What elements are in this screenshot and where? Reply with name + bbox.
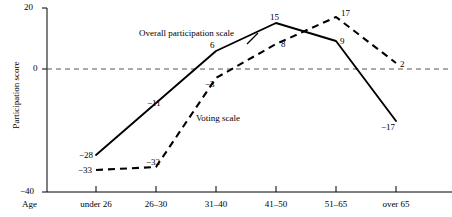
series-annotation-overall-participation: Overall participation scale	[139, 29, 234, 38]
series-line-overall-participation	[96, 23, 396, 155]
data-label-overall-over-65: −17	[381, 123, 395, 132]
x-tick-label-over-65: over 65	[382, 200, 409, 209]
data-label-voting-31-40: −3	[205, 80, 215, 89]
data-label-overall-41-50: 15	[270, 13, 279, 22]
y-axis-title-wrapper: Participation score	[5, 35, 23, 155]
x-axis-title: Age	[22, 200, 37, 209]
data-label-overall-26-30: −11	[147, 99, 161, 108]
data-label-overall-31-40: 6	[210, 41, 215, 50]
x-tick-label-31-40: 31–40	[205, 200, 228, 209]
chart-container: Participation score 20 0 −40 Age under 2…	[0, 0, 452, 217]
y-axis-title: Participation score	[11, 61, 21, 128]
series-annotation-voting: Voting scale	[196, 114, 240, 123]
y-tick-label-minus-40: −40	[20, 187, 34, 196]
data-label-voting-over-65: 2	[400, 60, 405, 69]
data-label-voting-41-50: 8	[281, 40, 286, 49]
data-label-voting-under-26: −33	[78, 166, 92, 175]
series-line-voting	[96, 17, 396, 170]
x-tick-label-51-65: 51–65	[325, 200, 348, 209]
data-label-voting-26-30: −32	[146, 158, 160, 167]
data-label-voting-51-65: 17	[341, 9, 350, 18]
y-tick-label-0: 0	[33, 64, 38, 73]
x-tick-label-under-26: under 26	[80, 200, 112, 209]
x-tick-label-41-50: 41–50	[265, 200, 288, 209]
data-label-overall-51-65: 9	[340, 37, 345, 46]
data-label-overall-under-26: −28	[79, 151, 93, 160]
x-tick-label-26-30: 26–30	[145, 200, 168, 209]
y-tick-label-20: 20	[24, 3, 33, 12]
